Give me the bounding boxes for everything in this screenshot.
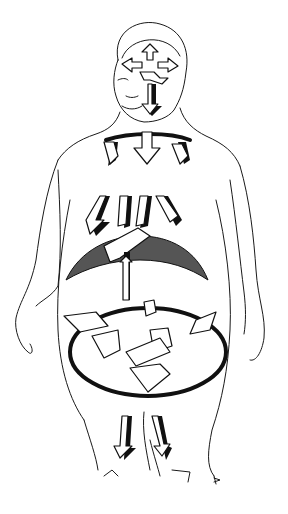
head-arrows	[122, 44, 178, 116]
shoulder-arrows	[104, 132, 190, 166]
illustration-canvas	[0, 0, 288, 514]
signature-mark	[214, 476, 220, 484]
chest-arrows	[66, 196, 208, 300]
figure-drawing	[0, 0, 288, 514]
abdomen-arrows	[64, 300, 226, 396]
